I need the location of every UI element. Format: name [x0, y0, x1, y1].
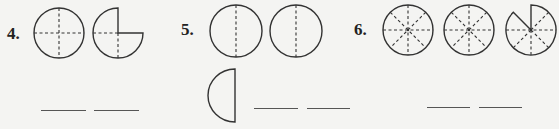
problem-5-circle-2-halves — [270, 5, 322, 57]
problem-5-half-circle — [208, 69, 235, 122]
problem-6-circle-3-seven-eighths — [506, 5, 556, 55]
problem-5-answer-blank-2[interactable] — [307, 108, 350, 109]
problem-5-answer-blank-1[interactable] — [254, 108, 298, 109]
problem-4-circle-three-quarters — [93, 8, 143, 58]
problem-6-circle-1-eighths — [383, 5, 433, 55]
problem-6-answer-blank-1[interactable] — [427, 107, 470, 108]
problem-6-circle-2-eighths — [444, 5, 494, 55]
problem-5-circle-1-halves — [210, 5, 262, 57]
problem-6-answer-blank-2[interactable] — [479, 107, 522, 108]
problem-4-circle-whole-quarters — [34, 8, 84, 58]
problem-4-answer-blank-2[interactable] — [94, 110, 139, 111]
problem-4-answer-blank-1[interactable] — [41, 110, 86, 111]
